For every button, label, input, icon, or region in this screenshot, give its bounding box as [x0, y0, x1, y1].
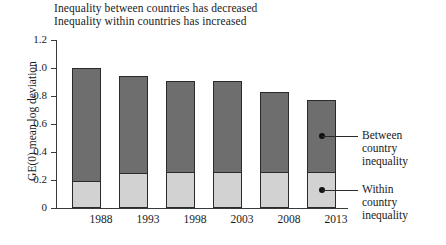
chart-figure: Inequality between countries has decreas…: [0, 0, 446, 245]
chart-subtitle: Inequality between countries has decreas…: [54, 2, 257, 28]
x-tick-label: 2013: [306, 213, 366, 225]
bar-segment-between-country: [72, 68, 101, 181]
callout-within-country-label: Withincountryinequality: [362, 183, 408, 222]
bar-segment-between-country: [119, 76, 148, 173]
callout-within-country-label-line-3: inequality: [362, 209, 408, 222]
stacked-bar: [260, 92, 289, 208]
y-tick-label: 0.2: [33, 173, 47, 185]
bar-segment-within-country: [213, 172, 242, 208]
y-tick: 0.4: [51, 152, 56, 153]
bar-segment-between-country: [166, 81, 195, 172]
callout-between-country-label: Betweencountryinequality: [362, 129, 408, 168]
y-tick: 1.2: [51, 40, 56, 41]
y-tick: 1.0: [51, 68, 56, 69]
y-tick-label: 1.0: [33, 61, 47, 73]
subtitle-line-2: Inequality within countries has increase…: [54, 15, 257, 28]
y-tick: 0.2: [51, 180, 56, 181]
bar-segment-between-country: [260, 92, 289, 172]
bar-segment-within-country: [260, 172, 289, 208]
y-tick: 0.8: [51, 96, 56, 97]
stacked-bar: [166, 81, 195, 208]
y-tick-label: 0.8: [33, 89, 47, 101]
callout-within-country-label-line-1: Within: [362, 183, 408, 196]
y-tick-label: 0: [42, 201, 48, 213]
callout-between-country-label-line-1: Between: [362, 129, 408, 142]
stacked-bar: [72, 68, 101, 208]
y-tick: 0: [51, 208, 56, 209]
x-axis-line: [56, 208, 348, 209]
subtitle-line-1: Inequality between countries has decreas…: [54, 2, 257, 15]
y-tick-label: 1.2: [33, 33, 47, 45]
bar-segment-within-country: [166, 172, 195, 208]
callout-between-country-label-line-2: country: [362, 142, 408, 155]
bar-segment-within-country: [119, 173, 148, 208]
y-tick: 0.6: [51, 124, 56, 125]
callout-within-country-leader-line: [322, 190, 359, 191]
bar-segment-within-country: [72, 181, 101, 208]
y-tick-label: 0.6: [33, 117, 47, 129]
bar-segment-between-country: [213, 81, 242, 172]
y-tick-label: 0.4: [33, 145, 47, 157]
callout-within-country-label-line-2: country: [362, 196, 408, 209]
plot-area: 1.21.00.80.60.40.20 19881993199820032008…: [56, 40, 348, 208]
callout-between-country-leader-line: [322, 136, 359, 137]
stacked-bar: [119, 76, 148, 208]
callout-between-country-label-line-3: inequality: [362, 155, 408, 168]
y-axis-line: [56, 40, 57, 208]
stacked-bar: [213, 81, 242, 208]
